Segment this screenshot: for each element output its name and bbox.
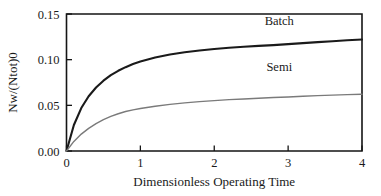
y-axis-title: Nw/(Ntot)0 — [5, 52, 20, 113]
x-tick-label: 0 — [63, 156, 69, 170]
x-tick-label: 3 — [285, 156, 291, 170]
data-curve-semi — [67, 94, 363, 151]
y-tick-label: 0.00 — [38, 145, 60, 159]
data-series-group — [67, 40, 363, 151]
x-tick-label: 1 — [137, 156, 143, 170]
y-axis-ticks — [67, 14, 73, 151]
frame-border — [67, 14, 363, 151]
series-annotation-semi: Semi — [266, 60, 292, 74]
x-axis-title: Dimensionless Operating Time — [133, 174, 295, 189]
x-axis-tick-labels: 01234 — [63, 156, 366, 170]
plot-canvas: 01234 0.000.050.100.15 BatchSemi Dimensi… — [0, 0, 381, 196]
x-tick-label: 2 — [211, 156, 217, 170]
y-tick-label: 0.10 — [38, 53, 60, 67]
y-axis-tick-labels: 0.000.050.100.15 — [38, 8, 60, 159]
x-axis-ticks — [67, 146, 363, 152]
y-tick-label: 0.05 — [38, 99, 60, 113]
x-tick-label: 4 — [359, 156, 366, 170]
series-annotation-batch: Batch — [265, 14, 295, 28]
axis-frame — [67, 14, 363, 151]
y-tick-label: 0.15 — [38, 8, 60, 22]
chart-figure: 01234 0.000.050.100.15 BatchSemi Dimensi… — [0, 0, 381, 196]
